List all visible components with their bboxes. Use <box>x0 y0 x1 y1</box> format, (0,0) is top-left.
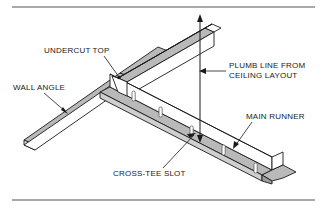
label-plumb-line-1: PLUMB LINE FROM <box>229 61 305 70</box>
figure-canvas: UNDERCUT TOP WALL ANGLE PLUMB LINE FROM … <box>0 0 326 211</box>
label-plumb-line-2: CEILING LAYOUT <box>229 71 297 80</box>
cross-tee-slot <box>222 145 225 155</box>
label-wall-angle: WALL ANGLE <box>13 83 65 92</box>
cross-tee-slot <box>159 107 162 117</box>
cross-tee-slot <box>254 163 257 173</box>
label-main-runner: MAIN RUNNER <box>246 112 305 121</box>
cross-tee-slot <box>132 91 135 101</box>
label-cross-tee-slot: CROSS-TEE SLOT <box>113 169 186 178</box>
label-undercut-top: UNDERCUT TOP <box>44 46 110 55</box>
leader-dot <box>117 76 121 80</box>
technical-diagram: UNDERCUT TOP WALL ANGLE PLUMB LINE FROM … <box>0 0 326 211</box>
